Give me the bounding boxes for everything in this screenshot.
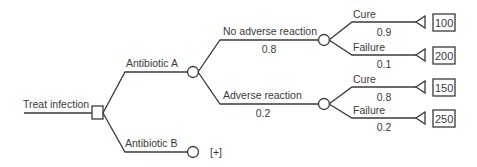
- no-adverse-probability: 0.8: [262, 43, 277, 55]
- option-a-label: Antibiotic A: [126, 57, 178, 69]
- root-label: Treat infection: [23, 98, 89, 110]
- outcome-4-probability: 0.2: [377, 121, 392, 133]
- decision-tree: Treat infection Antibiotic A Antibiotic …: [0, 0, 477, 167]
- option-b-label: Antibiotic B: [125, 137, 178, 149]
- adverse-probability: 0.2: [256, 107, 271, 119]
- outcome-1-probability: 0.9: [377, 26, 392, 38]
- outcome-4-label: Failure: [353, 104, 385, 116]
- payoff-2: 200: [435, 50, 453, 62]
- outcome-3-label: Cure: [353, 73, 376, 85]
- chance-node-b-icon[interactable]: [188, 147, 199, 158]
- chance-node-a-icon[interactable]: [188, 67, 199, 78]
- adverse-label: Adverse reaction: [223, 89, 302, 101]
- outcome-1-label: Cure: [353, 8, 376, 20]
- outcome-3-line: [329, 87, 416, 104]
- expand-marker[interactable]: [+]: [210, 146, 222, 158]
- chance-node-no-adverse-icon[interactable]: [319, 35, 330, 46]
- outcome-3-probability: 0.8: [377, 91, 392, 103]
- chance-node-adverse-icon[interactable]: [319, 99, 330, 110]
- payoff-3: 150: [435, 82, 453, 94]
- decision-node-icon[interactable]: [92, 106, 103, 119]
- no-adverse-label: No adverse reaction: [223, 25, 317, 37]
- outcome-2-label: Failure: [353, 41, 385, 53]
- terminal-node-1-icon[interactable]: [416, 16, 425, 28]
- payoff-4: 250: [435, 113, 453, 125]
- outcome-2-probability: 0.1: [377, 58, 392, 70]
- terminal-node-3-icon[interactable]: [416, 81, 425, 93]
- terminal-node-4-icon[interactable]: [416, 112, 425, 124]
- outcome-1-line: [329, 22, 416, 40]
- terminal-node-2-icon[interactable]: [416, 49, 425, 61]
- payoff-1: 100: [435, 17, 453, 29]
- no-adverse-branch-line: [198, 40, 319, 72]
- option-a-branch-line: [103, 72, 188, 113]
